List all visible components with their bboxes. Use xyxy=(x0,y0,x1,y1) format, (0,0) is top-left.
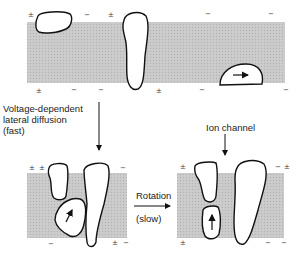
svg-text:±: ± xyxy=(180,239,186,247)
bottom-right-membrane: ± − ± ± − − xyxy=(177,134,290,247)
svg-text:±: ± xyxy=(108,11,114,19)
svg-text:−: − xyxy=(265,239,271,247)
svg-text:−: − xyxy=(120,164,126,172)
svg-text:±: ± xyxy=(112,239,118,247)
protein-subunit xyxy=(202,206,220,239)
rotation-speed-label: (slow) xyxy=(136,213,161,224)
diffusion-label-line1: Voltage-dependent xyxy=(3,103,83,114)
svg-text:−: − xyxy=(199,86,205,94)
diffusion-label-line3: (fast) xyxy=(3,125,83,136)
svg-text:−: − xyxy=(123,239,129,247)
svg-text:−: − xyxy=(281,239,287,247)
rotation-label: Rotation xyxy=(136,190,171,201)
ion-channel-label: Ion channel xyxy=(206,122,255,133)
svg-text:−: − xyxy=(275,163,281,171)
diffusion-label-line2: lateral diffusion xyxy=(3,114,83,125)
svg-text:−: − xyxy=(98,86,104,94)
svg-text:±: ± xyxy=(284,163,290,171)
svg-text:±: ± xyxy=(28,11,34,19)
diffusion-label: Voltage-dependent lateral diffusion (fas… xyxy=(3,103,83,136)
svg-text:−: − xyxy=(84,11,90,19)
svg-text:±: ± xyxy=(39,164,45,172)
svg-text:−: − xyxy=(48,240,54,248)
bottom-left-membrane: ± ± − − ± − xyxy=(27,163,129,248)
svg-text:−: − xyxy=(268,10,274,18)
svg-text:−: − xyxy=(205,10,211,18)
svg-text:±: ± xyxy=(180,163,186,171)
top-membrane: ± − ± − − ± − − ± − − xyxy=(27,10,289,95)
svg-text:±: ± xyxy=(156,87,162,95)
svg-text:−: − xyxy=(71,86,77,94)
svg-text:±: ± xyxy=(29,164,35,172)
svg-text:±: ± xyxy=(36,87,42,95)
svg-text:−: − xyxy=(283,86,289,94)
